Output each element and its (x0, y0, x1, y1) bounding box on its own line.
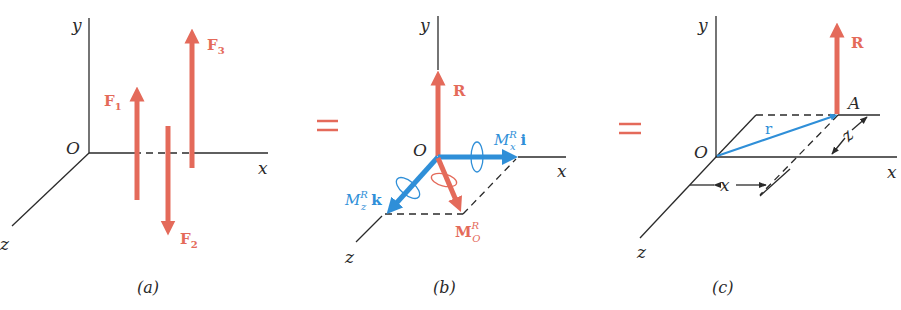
moment-z: MRzk (344, 157, 438, 212)
dimension-x: x (690, 169, 790, 196)
x-dimension-label: x (720, 175, 730, 195)
moment-x-label: MRxi (493, 129, 527, 152)
y-axis-label: y (697, 15, 708, 35)
arrow-diagonal-icon (392, 157, 438, 208)
arrow-diagonal-icon (717, 116, 834, 156)
dimension-arrow-icon (852, 117, 867, 130)
panel-a: y x z O F1 F2 F3 (a) (0, 15, 268, 297)
moment-o-label: MRO (455, 220, 480, 244)
force-f3: F3 (192, 36, 225, 168)
force-label: F1 (104, 92, 122, 112)
r-label: r (765, 120, 773, 138)
force-label: F2 (180, 230, 198, 250)
equals-sign-1 (317, 121, 338, 130)
origin-label: O (694, 142, 708, 162)
resultant-label: R (453, 82, 466, 100)
y-axis-label: y (71, 15, 82, 35)
x-axis-label: x (887, 162, 897, 182)
rotation-icon (430, 171, 458, 189)
equals-sign-2 (619, 124, 641, 133)
parallelogram-dashed (463, 159, 516, 214)
panel-b: y x z O R MRxi MRzk MRO (b) (344, 15, 567, 297)
x-axis-label: x (557, 161, 567, 181)
z-axis-label: z (0, 234, 10, 254)
resultant-label: R (851, 34, 864, 52)
panel-c: y x z O R A r x z (c) (636, 15, 897, 297)
moment-z-label: MRzk (344, 189, 382, 212)
moment-x: MRxi (438, 129, 527, 172)
position-vector-r: r (717, 116, 834, 156)
z-axis (640, 157, 716, 238)
force-system-diagram: y x z O F1 F2 F3 (a) (0, 0, 901, 310)
z-axis-label: z (344, 247, 355, 267)
z-axis (12, 153, 89, 226)
origin-label: O (413, 140, 427, 160)
moment-o: MRO (430, 158, 480, 244)
parallelogram-edge (716, 115, 756, 157)
force-f1: F1 (104, 92, 137, 200)
force-label: F3 (207, 36, 225, 56)
resultant-force-b: R (438, 78, 466, 156)
y-axis-label: y (419, 15, 430, 35)
x-axis-label: x (258, 158, 268, 178)
dimension-z: z (832, 117, 867, 154)
dimension-arrow-icon (832, 138, 845, 154)
axes-a: y x z O (0, 15, 268, 254)
z-axis-label: z (636, 242, 647, 262)
arrow-diagonal-icon (438, 158, 458, 205)
extension-line (760, 169, 790, 196)
caption-c: (c) (712, 278, 733, 297)
caption-b: (b) (433, 278, 456, 297)
caption-a: (a) (137, 278, 159, 297)
origin-label: O (66, 138, 80, 158)
point-a-label: A (846, 93, 860, 113)
z-axis-segment (356, 216, 382, 242)
